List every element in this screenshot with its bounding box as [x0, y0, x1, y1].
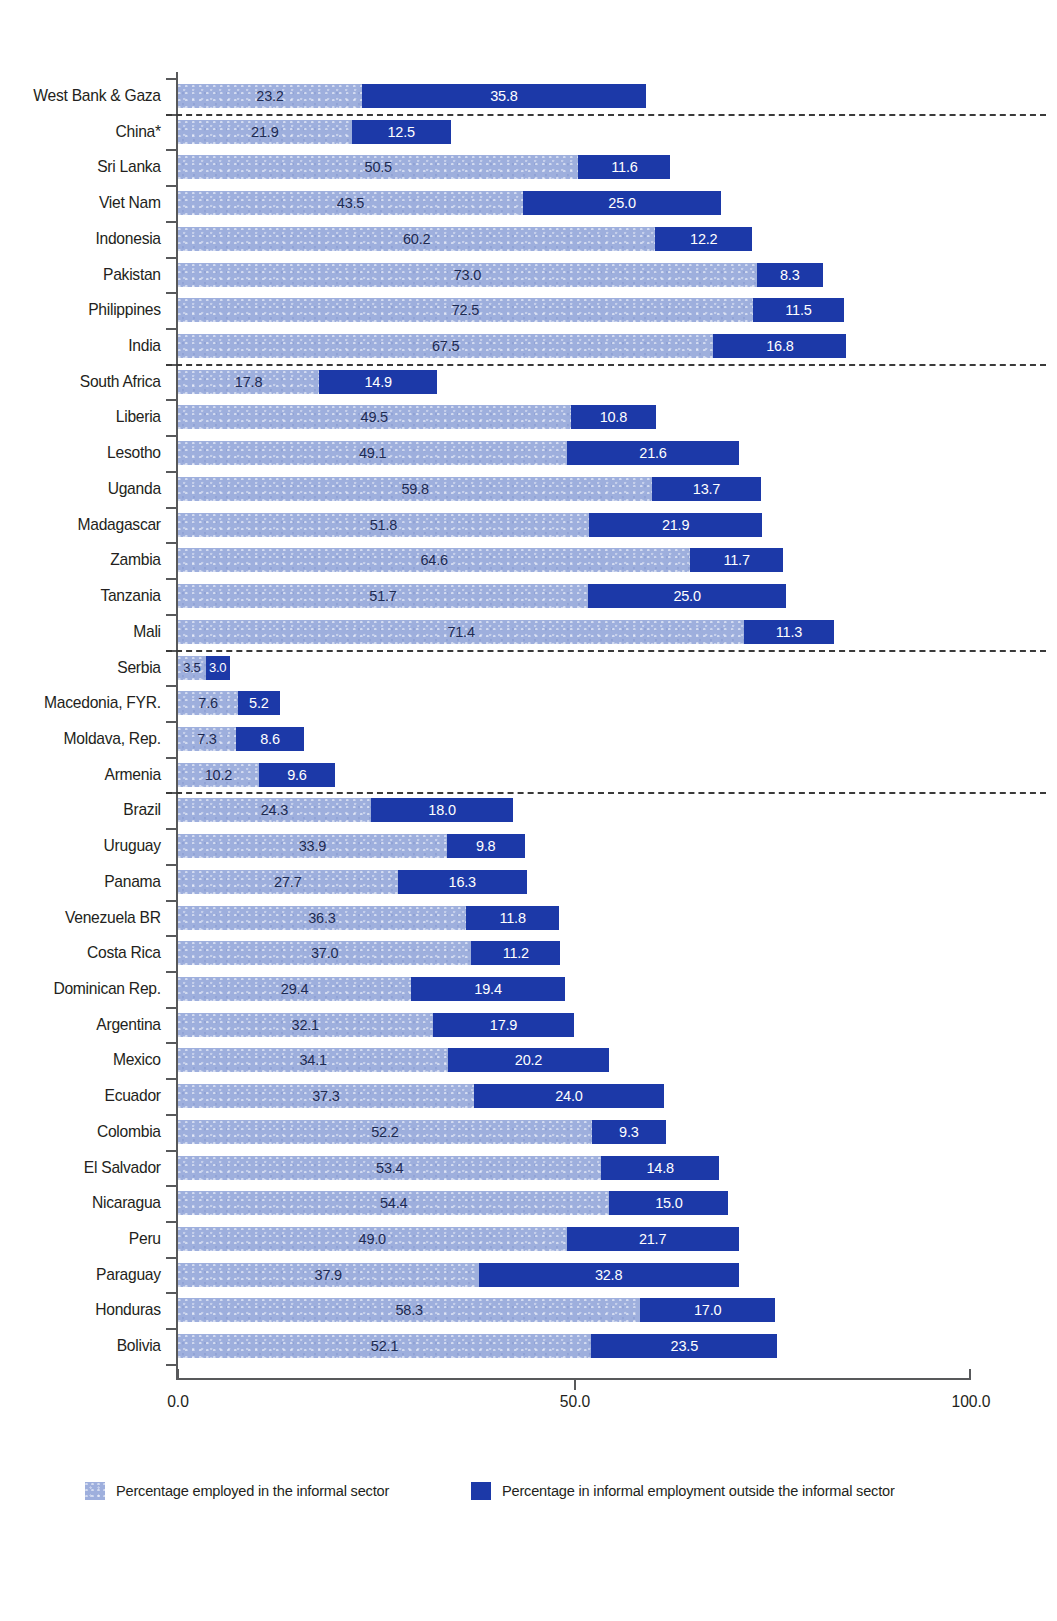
- bar-value-outside-informal-sector: 21.9: [589, 513, 763, 537]
- bar-row: 64.611.7: [178, 548, 971, 572]
- bar-value-informal-sector: 49.5: [178, 405, 571, 429]
- category-label: Peru: [14, 1227, 170, 1251]
- y-axis-tick: [166, 399, 178, 401]
- bar-value-informal-sector: 50.5: [178, 155, 578, 179]
- bar-value-informal-sector: 58.3: [178, 1298, 640, 1322]
- category-label: West Bank & Gaza: [14, 84, 170, 108]
- bar-row: 7.38.6: [178, 727, 971, 751]
- bar-value-informal-sector: 54.4: [178, 1191, 609, 1215]
- bar-value-informal-sector: 34.1: [178, 1048, 448, 1072]
- bar-segment-outside-informal-sector: 17.0: [640, 1298, 775, 1322]
- bar-value-informal-sector: 36.3: [178, 906, 466, 930]
- bar-value-informal-sector: 52.1: [178, 1334, 591, 1358]
- bar-segment-outside-informal-sector: 12.5: [352, 120, 451, 144]
- bar-value-informal-sector: 7.3: [178, 727, 236, 751]
- bar-row: 49.510.8: [178, 405, 971, 429]
- x-tick-label-0: 0.0: [167, 1392, 189, 1412]
- category-label: Moldava, Rep.: [14, 727, 170, 751]
- bar-segment-outside-informal-sector: 25.0: [588, 584, 786, 608]
- category-label: Viet Nam: [14, 191, 170, 215]
- bar-segment-outside-informal-sector: 16.3: [398, 870, 527, 894]
- bar-value-informal-sector: 51.7: [178, 584, 588, 608]
- bar-segment-outside-informal-sector: 11.7: [690, 548, 783, 572]
- y-axis-tick: [166, 828, 178, 830]
- category-label: Venezuela BR: [14, 906, 170, 930]
- bar-row: 43.525.0: [178, 191, 971, 215]
- bar-segment-outside-informal-sector: 8.3: [757, 263, 823, 287]
- bar-segment-informal-sector: 58.3: [178, 1298, 640, 1322]
- bar-segment-informal-sector: 7.6: [178, 691, 238, 715]
- bar-segment-outside-informal-sector: 25.0: [523, 191, 721, 215]
- bar-segment-outside-informal-sector: 21.9: [589, 513, 763, 537]
- bar-value-informal-sector: 64.6: [178, 548, 690, 572]
- category-label: Uganda: [14, 477, 170, 501]
- legend-label-outside-informal-sector: Percentage in informal employment outsid…: [502, 1482, 895, 1500]
- bar-segment-informal-sector: 60.2: [178, 227, 655, 251]
- bar-row: 29.419.4: [178, 977, 971, 1001]
- bar-segment-outside-informal-sector: 35.8: [362, 84, 646, 108]
- category-label: Madagascar: [14, 513, 170, 537]
- group-separator: [166, 792, 1046, 794]
- bar-segment-informal-sector: 17.8: [178, 370, 319, 394]
- bar-segment-outside-informal-sector: 11.2: [471, 941, 560, 965]
- y-axis-tick: [166, 971, 178, 973]
- bar-row: 37.932.8: [178, 1263, 971, 1287]
- bar-value-outside-informal-sector: 3.0: [206, 656, 230, 680]
- bar-value-informal-sector: 60.2: [178, 227, 655, 251]
- bar-value-informal-sector: 24.3: [178, 798, 371, 822]
- y-axis-tick: [166, 1257, 178, 1259]
- bar-row: 33.99.8: [178, 834, 971, 858]
- category-label: Pakistan: [14, 263, 170, 287]
- x-tick-label-100: 100.0: [951, 1392, 990, 1412]
- bar-value-informal-sector: 67.5: [178, 334, 713, 358]
- category-label: Colombia: [14, 1120, 170, 1144]
- y-axis-tick: [166, 1292, 178, 1294]
- bar-segment-informal-sector: 3.5: [178, 656, 206, 680]
- bar-value-outside-informal-sector: 32.8: [479, 1263, 739, 1287]
- category-label: Sri Lanka: [14, 155, 170, 179]
- y-axis-tick: [166, 1042, 178, 1044]
- bar-row: 71.411.3: [178, 620, 971, 644]
- bar-segment-informal-sector: 37.3: [178, 1084, 474, 1108]
- bar-row: 37.324.0: [178, 1084, 971, 1108]
- bar-segment-informal-sector: 32.1: [178, 1013, 433, 1037]
- bar-row: 52.29.3: [178, 1120, 971, 1144]
- group-separator: [166, 114, 1046, 116]
- y-axis-tick: [166, 864, 178, 866]
- category-axis-labels: West Bank & GazaChina*Sri LankaViet NamI…: [0, 84, 170, 1370]
- bar-value-outside-informal-sector: 8.6: [236, 727, 304, 751]
- bar-value-outside-informal-sector: 21.6: [567, 441, 738, 465]
- bar-value-informal-sector: 33.9: [178, 834, 447, 858]
- bar-segment-outside-informal-sector: 14.9: [319, 370, 437, 394]
- bar-row: 32.117.9: [178, 1013, 971, 1037]
- bar-segment-informal-sector: 54.4: [178, 1191, 609, 1215]
- bar-value-outside-informal-sector: 21.7: [567, 1227, 739, 1251]
- bar-row: 51.725.0: [178, 584, 971, 608]
- y-axis-tick: [166, 721, 178, 723]
- bar-value-informal-sector: 53.4: [178, 1156, 601, 1180]
- bar-value-outside-informal-sector: 17.0: [640, 1298, 775, 1322]
- bar-segment-informal-sector: 37.9: [178, 1263, 479, 1287]
- bar-row: 52.123.5: [178, 1334, 971, 1358]
- bar-value-informal-sector: 27.7: [178, 870, 398, 894]
- bar-segment-informal-sector: 52.1: [178, 1334, 591, 1358]
- bar-row: 27.716.3: [178, 870, 971, 894]
- category-label: Costa Rica: [14, 941, 170, 965]
- bar-segment-outside-informal-sector: 11.8: [466, 906, 560, 930]
- y-axis-tick: [166, 435, 178, 437]
- y-axis-tick: [166, 149, 178, 151]
- legend-item-informal-sector: Percentage employed in the informal sect…: [85, 1480, 407, 1502]
- bar-segment-outside-informal-sector: 10.8: [571, 405, 657, 429]
- bar-value-outside-informal-sector: 25.0: [523, 191, 721, 215]
- bar-row: 3.53.0: [178, 656, 971, 680]
- y-axis-tick: [166, 1185, 178, 1187]
- bar-row: 7.65.2: [178, 691, 971, 715]
- bar-value-outside-informal-sector: 5.2: [238, 691, 279, 715]
- bar-segment-informal-sector: 37.0: [178, 941, 471, 965]
- bar-value-outside-informal-sector: 9.6: [259, 763, 335, 787]
- bar-segment-informal-sector: 64.6: [178, 548, 690, 572]
- bar-value-outside-informal-sector: 18.0: [371, 798, 514, 822]
- y-axis-tick: [166, 328, 178, 330]
- y-axis-tick: [166, 1364, 178, 1366]
- bar-value-informal-sector: 37.3: [178, 1084, 474, 1108]
